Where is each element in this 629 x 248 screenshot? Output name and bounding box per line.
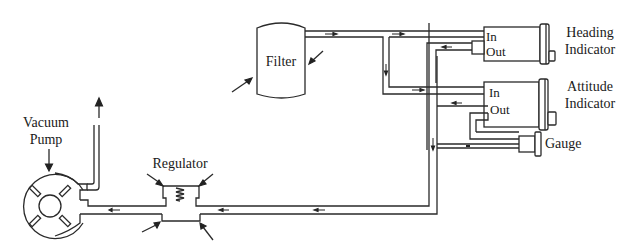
heading-indicator-label-line2: Indicator [565,42,616,57]
flow-arrow-left-icon [452,102,456,105]
regulator: Regulator [142,156,213,240]
flow-arrow-right-icon [400,33,404,36]
attitude-indicator-label-line1: Attitude [567,79,613,94]
gauge: Gauge [437,132,582,156]
vacuum-pump: Vacuum Pump [23,98,102,239]
heading-knob-icon [549,51,555,61]
attitude-in-label: In [489,85,500,100]
exhaust-pipe [87,125,99,190]
supply-line [305,31,484,94]
arrow-down-icon [46,164,53,171]
vacuum-pump-label-line2: Pump [30,132,63,147]
air-arrow-icon [154,222,160,228]
flow-arrow-down-icon [432,146,435,150]
gauge-body [519,136,535,152]
attitude-indicator-bezel [539,79,548,130]
attitude-indicator-label-line2: Indicator [565,96,616,111]
flow-arrow-left-icon [219,209,223,212]
vacuum-pump-label-line1: Vacuum [23,115,69,130]
arrow-up-icon [96,98,103,106]
vacuum-system-diagram: Vacuum Pump Regulator [0,0,629,248]
flow-arrow-left-icon [109,209,112,212]
regulator-label: Regulator [152,156,208,171]
attitude-indicator: In Out Attitude Indicator [437,79,616,138]
flow-arrow-right-icon [333,33,337,36]
heading-out-label: Out [486,44,506,59]
heading-out-fitting [472,41,484,54]
heading-in-label: In [486,29,497,44]
filter-label: Filter [266,54,297,69]
attitude-out-label: Out [490,102,510,117]
filter: Filter [232,23,323,98]
air-arrow-icon [200,223,206,229]
flow-arrow-left-icon [442,46,446,49]
spring-icon [176,188,184,201]
attitude-knob-icon [548,112,556,125]
heading-indicator-label-line1: Heading [566,25,613,40]
pump-rotor [39,195,61,217]
flow-arrow-left-icon [314,209,318,212]
flow-arrow-right-icon [420,89,424,92]
restrictor-icon [466,145,470,147]
return-line [200,23,437,214]
heading-indicator-bezel [540,24,549,64]
pump-to-regulator-pipe [80,200,162,214]
flow-arrow-down-icon [385,71,388,75]
gauge-label: Gauge [545,136,582,151]
gauge-face [535,132,541,156]
